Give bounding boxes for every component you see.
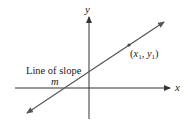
point-marker xyxy=(127,43,130,46)
line-label: Line of slope xyxy=(26,65,82,76)
x-axis-label: x xyxy=(174,81,180,93)
point-label: (x1, y1) xyxy=(130,48,159,61)
slope-diagram: y x Line of slope m (x1, y1) xyxy=(0,0,188,125)
y-axis-label: y xyxy=(84,3,90,15)
slope-label: m xyxy=(51,76,59,87)
